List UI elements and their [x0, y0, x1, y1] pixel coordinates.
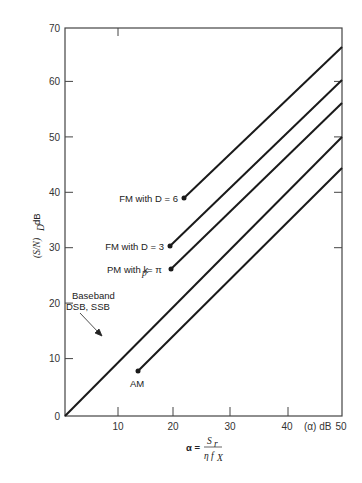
svg-text:50: 50	[49, 132, 61, 143]
svg-text:0: 0	[54, 411, 60, 422]
svg-text:FM with D = 6: FM with D = 6	[119, 193, 178, 204]
svg-text:(α) dB: (α) dB	[304, 421, 332, 432]
svg-text:η f: η f	[204, 451, 215, 461]
svg-text:70: 70	[49, 23, 61, 34]
line-fm-d6	[184, 47, 342, 198]
svg-text:AM: AM	[130, 378, 144, 389]
svg-text:(S/N): (S/N)	[32, 238, 43, 258]
x-tick-labels: 10 20 30 40 (α) dB 50	[112, 421, 347, 432]
svg-text:α =: α =	[186, 442, 200, 453]
svg-text:30: 30	[49, 242, 61, 253]
baseband-arrow	[80, 313, 102, 336]
svg-text:60: 60	[49, 76, 61, 87]
svg-text:20: 20	[49, 298, 61, 309]
svg-text:40: 40	[281, 421, 293, 432]
svg-text:DSB, SSB: DSB, SSB	[66, 301, 110, 312]
svg-text:S: S	[207, 436, 212, 446]
svg-text:r: r	[214, 439, 218, 449]
svg-text:dB: dB	[31, 213, 42, 225]
snr-chart: 0 10 20 30 40 50 60 70 10 20 30 40 (α) d…	[0, 0, 362, 483]
svg-text:10: 10	[49, 353, 61, 364]
svg-text:50: 50	[335, 421, 347, 432]
y-axis	[65, 81, 342, 358]
x-axis	[118, 28, 288, 416]
y-tick-labels: 0 10 20 30 40 50 60 70	[49, 23, 61, 422]
data-lines	[65, 47, 342, 416]
svg-text:40: 40	[49, 187, 61, 198]
svg-text:= π: = π	[147, 264, 162, 275]
y-axis-label: (S/N) D dB	[31, 213, 46, 258]
svg-text:20: 20	[167, 421, 179, 432]
svg-text:X: X	[216, 453, 224, 463]
svg-text:FM with D = 3: FM with D = 3	[105, 241, 164, 252]
x-axis-formula: α = S r η f X	[186, 436, 224, 463]
svg-text:Baseband: Baseband	[72, 290, 115, 301]
svg-text:30: 30	[224, 421, 236, 432]
svg-text:10: 10	[112, 421, 124, 432]
